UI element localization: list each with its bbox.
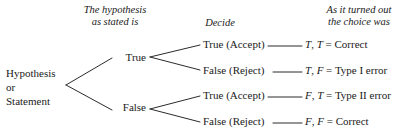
edge-false-to-accept [150, 96, 200, 109]
column-header-decide: Decide [178, 17, 262, 29]
hypothesis-decision-tree-figure: The hypothesis as stated is Decide As it… [0, 0, 418, 138]
outcome-row-1: T, F = Type I error [305, 64, 387, 76]
outcome-row-3-first: F [305, 115, 312, 127]
root-node-line3: Statement [6, 94, 56, 108]
column-header-hypothesis: The hypothesis as stated is [60, 4, 170, 28]
root-node-line2: or [6, 80, 56, 94]
root-node-hypothesis-or-statement: Hypothesis or Statement [6, 66, 56, 108]
outcome-row-1-result: Type I error [335, 64, 387, 76]
outcome-row-0-equals: = [323, 38, 335, 50]
edge-false-to-reject [150, 109, 200, 122]
outcome-row-2-first: F [305, 89, 312, 101]
decision-label-false-reject-1: False (Reject) [203, 64, 264, 76]
column-header-outcome: As it turned out the choice was [300, 4, 418, 28]
edge-true-to-reject [150, 57, 200, 70]
decision-label-true-accept-1: True (Accept) [203, 38, 265, 50]
column-header-hypothesis-line1: The hypothesis [60, 4, 170, 16]
outcome-row-3-second: F [317, 115, 324, 127]
outcome-row-2: F, T = Type II error [305, 89, 391, 101]
outcome-row-0: T, T = Correct [305, 38, 367, 50]
outcome-row-3-result: Correct [336, 115, 369, 127]
outcome-row-3: F, F = Correct [305, 115, 369, 127]
decision-label-false-reject-2: False (Reject) [203, 115, 264, 127]
outcome-row-3-equals: = [324, 115, 336, 127]
branch-node-false: False [96, 101, 146, 113]
outcome-row-0-result: Correct [334, 38, 367, 50]
root-node-line1: Hypothesis [6, 66, 56, 80]
column-header-outcome-line2: the choice was [300, 16, 418, 28]
decision-label-true-accept-2: True (Accept) [203, 89, 265, 101]
edge-true-to-accept [150, 45, 200, 57]
outcome-row-2-equals: = [323, 89, 335, 101]
column-header-hypothesis-line2: as stated is [60, 16, 170, 28]
column-header-outcome-line1: As it turned out [300, 4, 418, 16]
branch-node-true: True [96, 51, 146, 63]
outcome-row-2-result: Type II error [335, 89, 391, 101]
outcome-row-1-equals: = [323, 64, 335, 76]
